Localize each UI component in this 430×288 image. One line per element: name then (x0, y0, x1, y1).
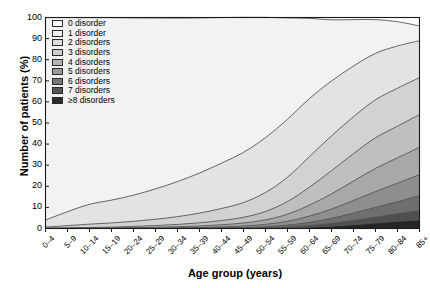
legend-swatch (52, 87, 63, 94)
legend-label: 0 disorder (68, 19, 106, 28)
legend-swatch (52, 30, 63, 37)
legend-swatch (52, 39, 63, 46)
chart-legend: 0 disorder1 disorder2 disorders3 disorde… (52, 19, 115, 105)
legend-swatch (52, 78, 63, 85)
legend-swatch (52, 97, 63, 104)
legend-swatch (52, 49, 63, 56)
legend-label: ≥8 disorders (68, 96, 115, 105)
legend-swatch (52, 20, 63, 27)
legend-item: ≥8 disorders (52, 96, 115, 106)
legend-swatch (52, 68, 63, 75)
legend-item: 3 disorders (52, 48, 115, 58)
legend-label: 3 disorders (68, 48, 110, 57)
legend-label: 5 disorders (68, 67, 110, 76)
legend-swatch (52, 59, 63, 66)
